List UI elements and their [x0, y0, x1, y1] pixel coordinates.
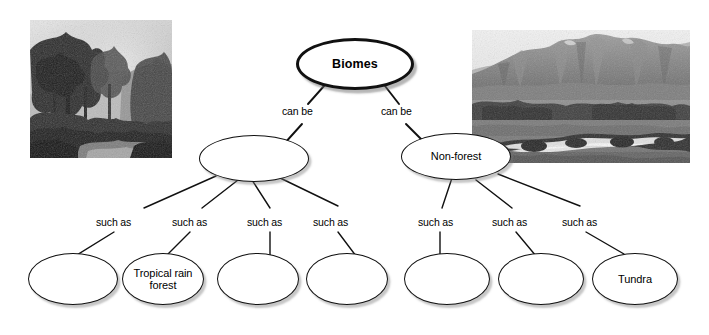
edge-root-right-upper	[385, 86, 399, 104]
edge-right-3-upper	[498, 174, 580, 206]
edge-label-such-as-left-4: such as	[313, 216, 348, 228]
node-non-forest[interactable]: Non-forest	[401, 133, 511, 180]
edge-root-left-upper	[308, 86, 324, 104]
edge-label-such-as-right-2: such as	[492, 216, 527, 228]
rainforest-photo	[30, 20, 172, 158]
leaf-tropical-rain-forest[interactable]: Tropical rain forest	[122, 253, 204, 305]
leaf-left-4-blank[interactable]	[306, 253, 388, 305]
leaf-tropical-rain-forest-label: Tropical rain forest	[123, 267, 203, 292]
edge-label-such-as-right-3: such as	[562, 216, 597, 228]
leaf-tundra[interactable]: Tundra	[592, 253, 678, 305]
edge-label-such-as-left-2: such as	[172, 216, 207, 228]
edge-label-can-be-left: can be	[282, 105, 313, 117]
node-biomes-label: Biomes	[328, 58, 382, 71]
node-biomes[interactable]: Biomes	[296, 38, 414, 90]
edge-left-4-upper	[276, 176, 338, 206]
edge-left-1-upper	[144, 176, 216, 208]
tundra-photo-art	[472, 30, 690, 163]
node-non-forest-label: Non-forest	[427, 150, 485, 163]
rainforest-photo-art	[30, 20, 172, 158]
leaf-right-1-blank[interactable]	[404, 253, 490, 305]
edge-right-3-lower	[586, 232, 624, 254]
edge-right-2-upper	[476, 180, 512, 208]
edge-label-such-as-right-1: such as	[418, 216, 453, 228]
leaf-right-2-blank[interactable]	[498, 253, 584, 305]
leaf-left-1-blank[interactable]	[28, 253, 118, 305]
tundra-photo	[472, 30, 690, 163]
edge-label-such-as-left-3: such as	[247, 216, 282, 228]
leaf-tundra-label: Tundra	[614, 273, 656, 286]
edge-label-such-as-left-1: such as	[96, 216, 131, 228]
concept-map-canvas: Biomes can be can be Non-forest such as …	[0, 0, 709, 335]
node-middle-left-blank[interactable]	[199, 135, 309, 182]
leaf-left-3-blank[interactable]	[217, 253, 299, 305]
edge-right-1-upper	[442, 178, 452, 208]
edge-left-3-upper	[252, 180, 270, 208]
edge-left-2-upper	[202, 180, 238, 208]
edge-label-can-be-right: can be	[381, 105, 412, 117]
